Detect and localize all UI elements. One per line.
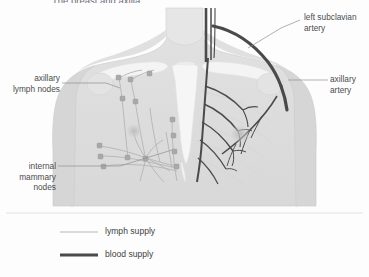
legend-label-blood-supply: blood supply <box>105 249 153 260</box>
lymph-node <box>98 154 103 159</box>
lymph-node <box>97 143 102 148</box>
leader-left-subclavian <box>248 20 300 48</box>
lymph-node <box>174 164 179 169</box>
lymph-node <box>116 75 121 80</box>
lymph-node <box>147 71 152 76</box>
label-axillary-artery: axillary artery <box>330 74 368 95</box>
label-left-subclavian-artery: left subclavian artery <box>304 12 366 33</box>
lymph-node <box>128 77 133 82</box>
lymph-node <box>120 96 125 101</box>
label-axillary-lymph-nodes: axillary lymph nodes <box>2 73 60 94</box>
vessel-trunk-thin <box>214 8 215 58</box>
lymph-node <box>172 149 177 154</box>
label-internal-mammary-nodes: internal mammary nodes <box>0 161 56 193</box>
left-areola <box>125 123 143 139</box>
lymph-node <box>171 133 176 138</box>
legend-group <box>6 213 363 255</box>
neck <box>166 8 203 45</box>
right-areola <box>229 124 251 144</box>
lymph-node <box>133 99 138 104</box>
anatomy-illustration <box>0 0 369 277</box>
anatomy-figure: The breast and axilla. <box>0 0 369 277</box>
legend-label-lymph-supply: lymph supply <box>105 226 155 237</box>
lymph-node <box>125 155 130 160</box>
lymph-node <box>101 164 106 169</box>
lymph-node <box>170 117 175 122</box>
